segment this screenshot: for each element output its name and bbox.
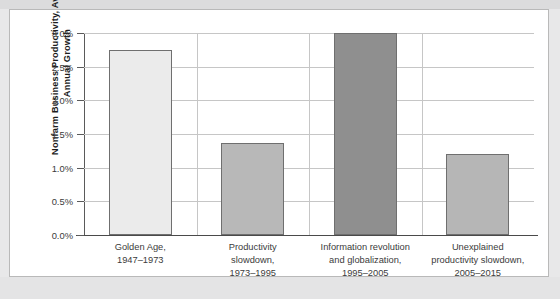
- x-axis-line: [76, 235, 538, 236]
- y-axis-tick-label: 1.5%: [52, 129, 73, 140]
- chart-figure-panel: Nonfarm Business Productivity, Average A…: [9, 9, 549, 277]
- y-axis-tick-label: 3.0%: [52, 28, 73, 39]
- page-band-top: [0, 0, 560, 9]
- y-axis-tick: [77, 33, 84, 34]
- y-axis-tick-label: 2.5%: [52, 61, 73, 72]
- x-axis-category-labels: Golden Age, 1947–1973Productivity slowdo…: [84, 241, 534, 285]
- bar: [221, 143, 284, 235]
- y-axis-tick: [77, 134, 84, 135]
- y-axis-tick-label: 0.0%: [52, 230, 73, 241]
- page-background: Nonfarm Business Productivity, Average A…: [0, 0, 560, 299]
- x-axis-category-label: Information revolution and globalization…: [309, 241, 422, 281]
- bar: [446, 154, 509, 235]
- y-axis-tick: [77, 201, 84, 202]
- x-axis-category-label: Golden Age, 1947–1973: [84, 241, 197, 267]
- y-axis-tick: [77, 67, 84, 68]
- category-separator: [309, 33, 310, 235]
- y-axis-tick-label: 1.0%: [52, 162, 73, 173]
- bar: [109, 50, 172, 235]
- y-axis-tick-label: 0.5%: [52, 196, 73, 207]
- bar: [334, 33, 397, 235]
- y-axis-tick-label: 2.0%: [52, 95, 73, 106]
- y-axis-tick: [77, 235, 84, 236]
- y-axis-tick: [77, 100, 84, 101]
- plot-area: 0.0%0.5%1.0%1.5%2.0%2.5%3.0%: [84, 33, 534, 235]
- plot-inner: 0.0%0.5%1.0%1.5%2.0%2.5%3.0%: [84, 33, 534, 235]
- category-separator: [422, 33, 423, 235]
- x-axis-category-label: Unexplained productivity slowdown, 2005–…: [422, 241, 535, 281]
- category-separator: [197, 33, 198, 235]
- x-axis-category-label: Productivity slowdown, 1973–1995: [197, 241, 310, 281]
- y-axis-tick: [77, 168, 84, 169]
